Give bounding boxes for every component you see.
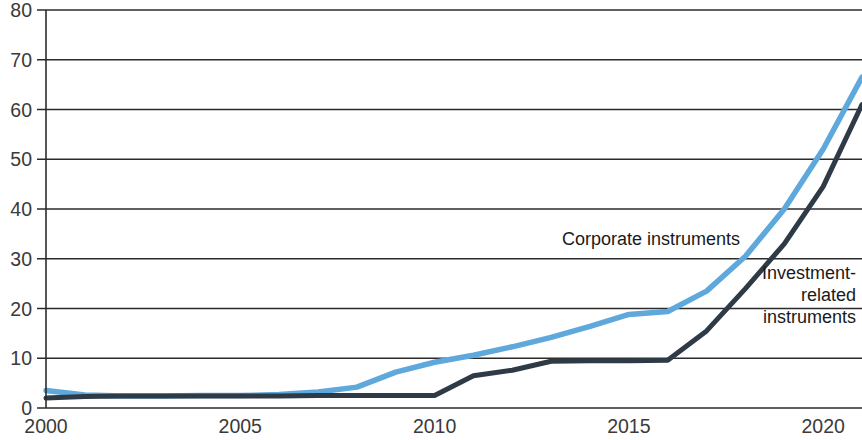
y-tick-label-50: 50 (10, 148, 32, 170)
y-tick-label-80: 80 (10, 0, 32, 21)
y-tick-label-10: 10 (10, 347, 32, 369)
tick-marks-group (37, 10, 46, 408)
x-tick-label-2020: 2020 (801, 415, 845, 437)
x-tick-label-2005: 2005 (219, 415, 263, 437)
x-tick-label-2010: 2010 (413, 415, 457, 437)
y-tick-label-40: 40 (10, 198, 32, 220)
series-line-investment-related-instruments (46, 105, 862, 399)
annotation-corporate-instruments: Corporate instruments (562, 229, 740, 249)
chart-container: 01020304050607080 20002005201020152020 C… (0, 0, 862, 440)
y-tick-label-20: 20 (10, 298, 32, 320)
y-tick-label-30: 30 (10, 248, 32, 270)
x-axis-tick-labels: 20002005201020152020 (24, 415, 845, 437)
y-tick-label-60: 60 (10, 99, 32, 121)
x-tick-label-2000: 2000 (24, 415, 68, 437)
y-axis-tick-labels: 01020304050607080 (10, 0, 32, 419)
annotation-investment-related-line2: related (801, 285, 856, 305)
annotation-investment-related-line3: instruments (763, 307, 856, 327)
x-tick-label-2015: 2015 (607, 415, 651, 437)
y-tick-label-70: 70 (10, 49, 32, 71)
series-annotations-group: Corporate instruments Investment- relate… (562, 229, 856, 327)
line-chart: 01020304050607080 20002005201020152020 C… (0, 0, 862, 440)
gridlines-group (46, 10, 862, 408)
annotation-investment-related-line1: Investment- (762, 263, 856, 283)
